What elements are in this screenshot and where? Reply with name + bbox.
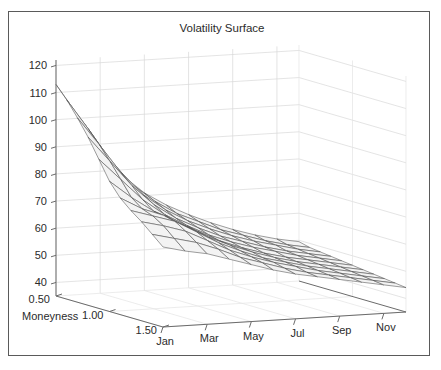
y-tick-label: 1.00 [82,309,103,321]
z-tick-label: 60 [35,222,47,234]
z-tick-label: 100 [29,114,47,126]
y-tick-label: 0.50 [29,293,50,305]
x-tick-label: Jan [156,335,174,347]
y-tick-label: 1.50 [136,324,157,336]
x-tick-label: Jul [290,327,304,339]
volatility-surface-figure: Volatility Surface 405060708090100110120… [0,0,441,370]
z-tick-label: 40 [35,276,47,288]
x-tick-label: Nov [376,321,396,333]
z-tick-label: 70 [35,195,47,207]
chart-title: Volatility Surface [179,22,264,34]
z-tick-label: 50 [35,249,47,261]
y-axis-title: Moneyness [22,310,79,322]
z-tick-label: 90 [35,141,47,153]
z-tick-label: 110 [29,87,47,99]
x-tick-label: May [243,330,264,342]
z-tick-label: 120 [29,59,47,71]
x-tick-label: Mar [200,332,219,344]
x-tick-label: Sep [332,324,352,336]
z-tick-label: 80 [35,168,47,180]
